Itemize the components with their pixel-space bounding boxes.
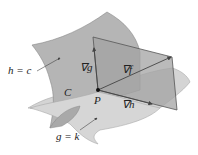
label-surface-g: g = k [56, 131, 79, 142]
label-point-p: P [94, 95, 101, 106]
label-grad-g: ∇g [80, 62, 93, 73]
label-grad-h: ∇h [122, 99, 135, 110]
label-curve-c: C [64, 87, 71, 98]
label-surface-h: h = c [8, 65, 31, 76]
point-p [96, 88, 100, 92]
lagrange-diagram: h = c g = k C P ∇g ∇f ∇h [0, 0, 198, 155]
label-grad-f: ∇f [122, 64, 132, 75]
